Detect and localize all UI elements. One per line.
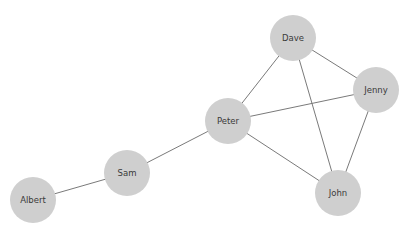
node-label: Sam [118, 168, 137, 178]
node-label: Dave [282, 33, 304, 43]
node-label: Albert [20, 195, 46, 205]
node-label: John [328, 188, 347, 198]
node-jenny[interactable]: Jenny [353, 67, 399, 113]
node-peter[interactable]: Peter [205, 98, 251, 144]
edge-dave-john [293, 38, 338, 193]
node-label: Peter [217, 116, 240, 126]
node-john[interactable]: John [315, 170, 361, 216]
node-sam[interactable]: Sam [104, 150, 150, 196]
node-label: Jenny [363, 85, 388, 95]
network-graph: Dave Jenny Peter Sam John Albert [0, 0, 405, 233]
node-dave[interactable]: Dave [270, 15, 316, 61]
nodes: Dave Jenny Peter Sam John Albert [10, 15, 399, 223]
node-albert[interactable]: Albert [10, 177, 56, 223]
